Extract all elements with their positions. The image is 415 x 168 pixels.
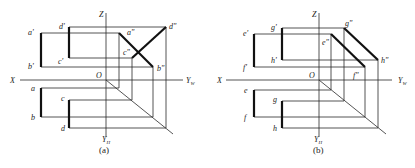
line-cd-side — [132, 27, 166, 58]
label-f: f — [244, 113, 248, 122]
label-z: Z — [99, 10, 104, 19]
label-z: Z — [312, 10, 317, 19]
label-a: a — [31, 84, 35, 93]
caption-b: (b) — [313, 145, 324, 155]
label-f-prime: f' — [243, 63, 247, 72]
label-x: X — [9, 76, 16, 85]
label-f-dprime: f" — [353, 71, 359, 80]
label-c-prime: c' — [58, 57, 64, 66]
label-a-prime: a' — [28, 28, 34, 37]
label-b-dprime: b" — [157, 64, 165, 73]
label-b: b — [31, 113, 35, 122]
label-d-prime: d' — [59, 22, 65, 31]
label-yw: YW — [186, 76, 195, 86]
caption-a: (a) — [99, 145, 109, 155]
label-yh: YH — [314, 135, 322, 145]
label-d: d — [61, 124, 66, 133]
line-gh-side — [344, 28, 378, 60]
45-degree-line — [319, 80, 386, 134]
figure-b: X Z O YW YH e' f' g' h' e" f" g" h" e f … — [216, 10, 407, 155]
label-yw: YW — [398, 76, 407, 86]
label-c-dprime: c" — [123, 48, 131, 57]
label-c: c — [61, 94, 65, 103]
figure-a: X Z O YW YH a' b' c' d' a" b" c" d" a b … — [9, 10, 195, 155]
label-a-dprime: a" — [127, 28, 135, 37]
label-h: h — [273, 124, 277, 133]
label-h-dprime: h" — [381, 56, 389, 65]
label-origin: O — [96, 71, 102, 80]
label-origin: O — [309, 71, 315, 80]
label-g-prime: g' — [271, 23, 277, 32]
label-h-prime: h' — [271, 56, 277, 65]
line-ef-side — [331, 34, 365, 67]
label-e: e — [244, 86, 248, 95]
label-yh: YH — [102, 135, 110, 145]
label-x: X — [216, 76, 223, 85]
label-g: g — [273, 95, 277, 104]
label-e-prime: e' — [243, 29, 249, 38]
label-b-prime: b' — [28, 62, 34, 71]
label-g-dprime: g" — [345, 19, 353, 28]
label-e-dprime: e" — [322, 38, 330, 47]
projection-diagrams: X Z O YW YH a' b' c' d' a" b" c" d" a b … — [0, 0, 415, 168]
label-d-dprime: d" — [169, 22, 177, 31]
